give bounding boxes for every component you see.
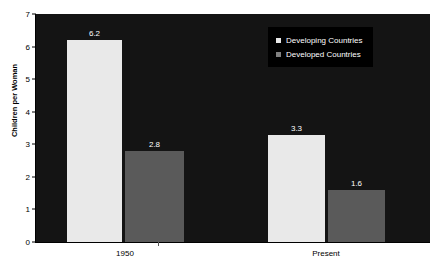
legend: Developing Countries Developed Countries [268,27,373,67]
bar-chart: Children per Woman 7 6 5 4 3 2 1 0 6.2 2… [0,0,433,267]
bar-present-developed [328,190,385,242]
bar-1950-developed [125,151,184,242]
y-axis-line [35,14,36,243]
bar-value-1950-developing: 6.2 [89,29,100,38]
legend-label-developing: Developing Countries [286,36,363,45]
legend-label-developed: Developed Countries [286,50,361,59]
y-tick-label-1: 1 [14,205,30,214]
y-tick-label-3: 3 [14,140,30,149]
legend-swatch-icon-developed [276,52,281,57]
y-tick-label-7: 7 [14,10,30,19]
x-tick-mark-middle [158,242,159,246]
y-tick-label-4: 4 [14,107,30,116]
legend-item-developed: Developed Countries [276,47,363,61]
y-tick-label-0: 0 [14,238,30,247]
y-tick-label-5: 5 [14,75,30,84]
x-axis-line [35,242,430,243]
bar-value-present-developing: 3.3 [291,124,302,133]
x-axis-label-1950: 1950 [116,249,134,258]
bar-present-developing [268,135,325,242]
legend-item-developing: Developing Countries [276,33,363,47]
plot-area: 6.2 2.8 3.3 1.6 Developing Countries Dev… [36,14,430,242]
bar-value-1950-developed: 2.8 [149,140,160,149]
y-tick-label-6: 6 [14,42,30,51]
legend-swatch-icon-developing [276,38,281,43]
bar-value-present-developed: 1.6 [351,179,362,188]
y-tick-label-2: 2 [14,172,30,181]
bar-1950-developing [67,40,122,242]
x-axis-label-present: Present [312,249,340,258]
